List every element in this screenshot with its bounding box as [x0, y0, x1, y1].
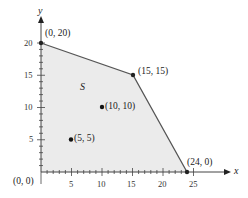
x-tick-5: 5	[69, 180, 73, 189]
y-axis-arrow-icon	[38, 16, 44, 23]
y-tick-15: 15	[24, 71, 33, 80]
label-5-5: (5, 5)	[74, 134, 95, 144]
point-24-0	[185, 170, 189, 174]
x-tick-20: 20	[158, 180, 167, 189]
point-10-10	[100, 105, 104, 109]
label-24-0: (24, 0)	[187, 158, 212, 168]
y-tick-20: 20	[24, 39, 33, 48]
label-0-20: (0, 20)	[45, 29, 70, 39]
x-tick-15: 15	[127, 180, 136, 189]
x-tick-10: 10	[97, 180, 106, 189]
y-axis-label: y	[38, 6, 42, 16]
point-5-5	[69, 137, 73, 141]
x-axis-arrow-icon	[224, 169, 231, 175]
label-10-10: (10, 10)	[105, 102, 135, 112]
label-15-15: (15, 15)	[138, 67, 168, 77]
x-axis-label: x	[234, 166, 238, 176]
y-tick-5: 5	[29, 135, 33, 144]
point-15-15	[131, 73, 135, 77]
x-tick-25: 25	[189, 180, 198, 189]
label-origin: (0, 0)	[13, 177, 34, 187]
region-label: S	[80, 82, 85, 92]
y-tick-10: 10	[24, 103, 33, 112]
point-0-20	[39, 41, 43, 45]
feasible-region-plot	[0, 0, 248, 198]
